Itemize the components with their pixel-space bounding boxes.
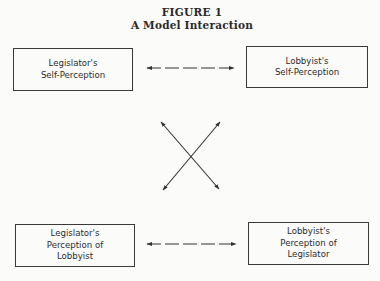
connectors-layer	[0, 0, 380, 281]
figure-canvas: FIGURE 1 A Model Interaction Legislator'…	[0, 0, 380, 281]
diagonal-arrow-tl-br	[161, 122, 219, 189]
